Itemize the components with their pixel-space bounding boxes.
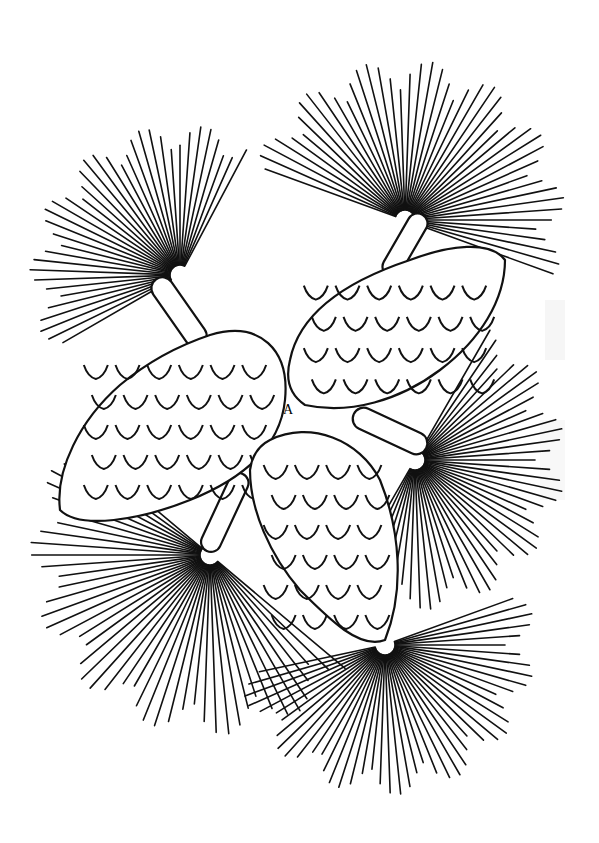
pine-cone-lower — [250, 432, 398, 642]
artist-signature: A — [283, 402, 294, 417]
pine-cone-upper-right — [288, 247, 505, 408]
pine-cone-illustration: A — [0, 0, 599, 843]
